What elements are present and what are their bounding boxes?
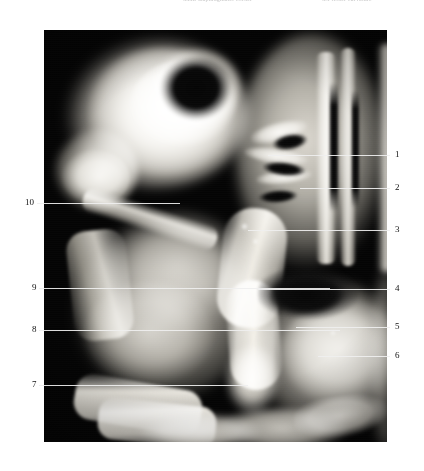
leader-line-5	[296, 327, 390, 328]
leader-line-2	[300, 188, 390, 189]
callout-number-4: 4	[395, 284, 400, 293]
callout-number-2: 2	[395, 183, 400, 192]
callout-number-1: 1	[395, 150, 400, 159]
callout-number-5: 5	[395, 322, 400, 331]
callout-number-7: 7	[32, 380, 37, 389]
callout-number-9: 9	[32, 283, 37, 292]
callout-number-3: 3	[395, 225, 400, 234]
leader-line-6	[318, 356, 390, 357]
callout-number-10: 10	[25, 198, 34, 207]
leader-line-3	[248, 230, 390, 231]
anatomical-figure-plate	[44, 30, 387, 442]
callout-number-6: 6	[395, 351, 400, 360]
leader-line-1	[268, 155, 390, 156]
page-canvas: dxdii diaphragmatic border d.1 lesser cu…	[0, 0, 424, 471]
leader-line-10	[37, 203, 180, 204]
leader-line-8	[39, 330, 340, 331]
header-text-fragment-left: dxdii diaphragmatic border	[183, 0, 252, 2]
callout-number-8: 8	[32, 325, 37, 334]
leader-line-7	[39, 385, 248, 386]
page-header-strip: dxdii diaphragmatic border d.1 lesser cu…	[0, 0, 424, 9]
header-text-fragment-right: d.1 lesser curvature	[322, 0, 372, 2]
leader-line-4	[258, 289, 390, 290]
specimen-tissue-rendering	[44, 30, 387, 442]
